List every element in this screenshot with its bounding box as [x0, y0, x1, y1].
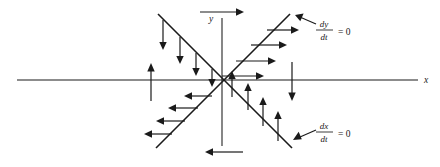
field-arrow-left [184, 92, 212, 99]
direction-field-upper-left [159, 20, 215, 87]
direction-field-lower-left [144, 92, 212, 137]
dy-dt-zero-label: dy dt = 0 [316, 19, 351, 42]
phase-plane-figure: x y [0, 0, 440, 167]
dx-dt-pointer [293, 130, 316, 140]
nullclines-group [156, 14, 292, 148]
direction-field-upper-right [222, 26, 299, 79]
field-arrow-down [208, 69, 215, 87]
phase-plane-svg: x y [0, 0, 440, 167]
dx-dt-zero-nullcline [158, 14, 292, 148]
left-x-axis-up-arrow [147, 63, 154, 101]
x-axis-label: x [423, 75, 429, 85]
field-arrow-right [222, 72, 264, 79]
field-arrow-down [159, 20, 166, 50]
dx-dt-denominator: dt [320, 134, 328, 144]
field-arrow-down [192, 53, 199, 76]
dy-dt-equals-zero: = 0 [338, 27, 351, 37]
dx-dt-numerator: dx [320, 121, 329, 131]
y-axis-label: y [208, 14, 214, 24]
top-y-axis-right-arrow [200, 8, 244, 15]
dx-dt-equals-zero: = 0 [338, 129, 351, 139]
dy-dt-numerator: dy [320, 19, 329, 29]
bottom-y-axis-left-arrow [205, 148, 243, 155]
right-x-axis-down-arrow [288, 62, 295, 101]
field-arrow-down [176, 37, 183, 64]
field-arrow-right [236, 57, 276, 64]
dy-dt-zero-nullcline [156, 14, 290, 148]
dx-dt-zero-label: dx dt = 0 [316, 121, 351, 144]
dy-dt-pointer [295, 14, 316, 24]
dy-dt-denominator: dt [320, 32, 328, 42]
